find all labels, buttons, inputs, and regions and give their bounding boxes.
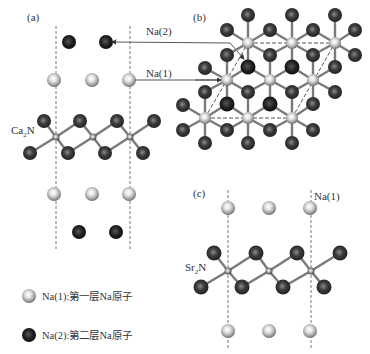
legend-na1-text: Na(1):第一层Na原子 bbox=[42, 290, 132, 303]
na1-atom bbox=[303, 324, 317, 338]
sr2n-label: Sr2N bbox=[185, 261, 206, 276]
legend-na2-symbol bbox=[22, 328, 36, 342]
na1-annotation: Na(1) bbox=[146, 67, 172, 80]
legend-na2-text: Na(2):第二层Na原子 bbox=[42, 329, 132, 342]
panel-b: (b) bbox=[176, 8, 362, 150]
na2-annotation: Na(2) bbox=[146, 25, 172, 38]
na1-atom bbox=[221, 201, 235, 215]
panel-a-label: (a) bbox=[27, 11, 40, 24]
panel-a: (a) bbox=[11, 11, 161, 250]
panel-c: (c) Na(1) bbox=[185, 187, 348, 350]
na1-atom bbox=[122, 187, 136, 201]
legend-na1-symbol bbox=[22, 289, 36, 303]
crystal-structure-figure: (a) bbox=[0, 0, 370, 354]
na2-atom bbox=[109, 225, 123, 239]
na1-atom bbox=[262, 201, 276, 215]
na1-atom bbox=[262, 324, 276, 338]
na1-atom bbox=[221, 324, 235, 338]
na2-atom bbox=[99, 35, 113, 49]
ca2n-label: Ca2N bbox=[11, 124, 35, 139]
n-atoms bbox=[225, 268, 315, 275]
panel-c-label: (c) bbox=[193, 187, 206, 200]
na1-atom bbox=[122, 73, 136, 87]
n-atoms bbox=[53, 134, 134, 141]
na1-atom bbox=[85, 73, 99, 87]
na1-label-c: Na(1) bbox=[314, 190, 340, 203]
legend: Na(1):第一层Na原子 Na(2):第二层Na原子 bbox=[22, 289, 132, 342]
na2-atom bbox=[72, 225, 86, 239]
panel-b-label: (b) bbox=[193, 11, 206, 24]
na1-atom bbox=[85, 187, 99, 201]
na1-atom bbox=[47, 73, 61, 87]
na2-atom bbox=[62, 35, 76, 49]
na1-atom bbox=[47, 187, 61, 201]
na1-atom bbox=[303, 201, 317, 215]
